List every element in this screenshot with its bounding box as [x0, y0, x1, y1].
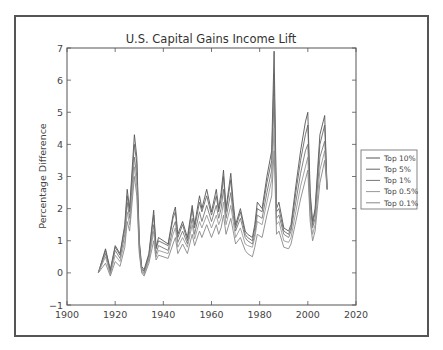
- y-tick-label: −1: [49, 300, 63, 311]
- y-axis-label: Percentage Difference: [37, 123, 48, 229]
- legend-label: Top 5%: [383, 165, 411, 174]
- y-tick-label: 4: [57, 139, 63, 150]
- series-lines: [98, 51, 327, 276]
- x-tick-label: 1940: [151, 309, 175, 320]
- legend: Top 10%Top 5%Top 1%Top 0.5%Top 0.1%: [361, 150, 418, 209]
- legend-label: Top 10%: [383, 154, 416, 163]
- y-tick-label: 1: [57, 235, 63, 246]
- y-tick-label: 7: [57, 43, 63, 54]
- x-tick-label: 2020: [344, 309, 368, 320]
- y-tick-label: 2: [57, 203, 63, 214]
- series-line: [98, 74, 327, 273]
- x-tick-label: 1920: [103, 309, 127, 320]
- x-tick-label: 2000: [296, 309, 320, 320]
- y-tick-label: 3: [57, 171, 63, 182]
- y-tick-label: 0: [57, 267, 63, 278]
- y-tick-label: 5: [57, 107, 63, 118]
- x-axis: 1900192019401960198020002020: [55, 48, 368, 320]
- legend-label: Top 0.1%: [383, 199, 418, 208]
- plot-area: [67, 48, 356, 305]
- legend-label: Top 1%: [383, 176, 411, 185]
- line-chart: U.S. Capital Gains Income Lift 190019201…: [0, 0, 443, 350]
- legend-label: Top 0.5%: [383, 187, 418, 196]
- x-tick-label: 1960: [199, 309, 223, 320]
- y-tick-label: 6: [57, 75, 63, 86]
- series-line: [98, 51, 327, 273]
- x-tick-label: 1900: [55, 309, 79, 320]
- x-tick-label: 1980: [248, 309, 272, 320]
- chart-title: U.S. Capital Gains Income Lift: [126, 32, 297, 46]
